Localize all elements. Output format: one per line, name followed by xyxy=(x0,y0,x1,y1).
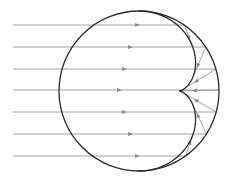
arrowhead-icon xyxy=(128,132,133,136)
arrowhead-icon xyxy=(128,45,133,49)
ray-line xyxy=(183,69,216,89)
arrowhead-icon xyxy=(117,88,122,92)
arrowhead-icon xyxy=(122,67,127,71)
arrowhead-icon xyxy=(122,110,127,114)
caustic-diagram xyxy=(0,0,230,178)
arrowhead-icon xyxy=(193,78,199,84)
arrowhead-icon xyxy=(135,154,140,158)
arrowhead-icon xyxy=(193,97,199,103)
arrowhead-icon xyxy=(135,23,140,27)
arrowhead-icon xyxy=(192,89,197,93)
reflected-rays xyxy=(179,25,219,156)
ray-line xyxy=(183,92,216,112)
